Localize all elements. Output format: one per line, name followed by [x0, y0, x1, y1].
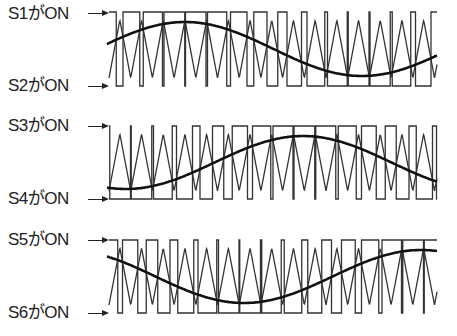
waveform-phase-v: [107, 126, 437, 199]
waveform-canvas: [0, 0, 457, 336]
waveform-phase-u: [107, 12, 437, 86]
sine-reference-wave: [107, 250, 437, 303]
waveform-phase-w: [107, 240, 437, 313]
sine-reference-wave: [107, 136, 437, 189]
sine-reference-wave: [107, 22, 437, 76]
